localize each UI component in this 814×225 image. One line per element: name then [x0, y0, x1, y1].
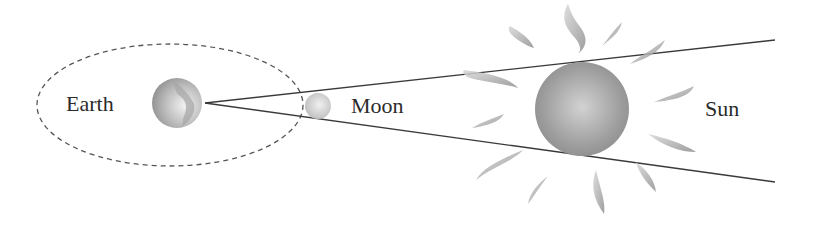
- sight-line-upper: [205, 40, 775, 103]
- earth-moon-sun-diagram: Earth Moon Sun: [0, 0, 814, 225]
- sun-icon: [535, 62, 629, 156]
- sun-label: Sun: [705, 98, 739, 120]
- moon-label: Moon: [351, 95, 404, 117]
- moon-icon: [305, 93, 331, 119]
- earth-label: Earth: [66, 93, 114, 115]
- diagram-canvas: [0, 0, 814, 225]
